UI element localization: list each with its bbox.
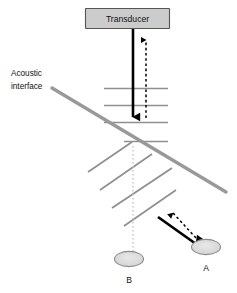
acoustic-interface-annotation: Acoustic interface bbox=[11, 69, 43, 91]
acoustic-interface-label-line2: interface bbox=[11, 82, 43, 91]
target-label-b: B bbox=[126, 275, 132, 285]
wavefront-line-below-3 bbox=[112, 168, 172, 208]
acoustic-interface-line bbox=[52, 88, 226, 192]
wavefront-line-below-1 bbox=[88, 142, 132, 172]
target-marker-b: B bbox=[115, 251, 144, 285]
target-ellipse-a bbox=[192, 239, 221, 254]
target-ellipse-b bbox=[115, 251, 144, 266]
diagram-canvas: Transducer A B Acoustic interface bbox=[0, 0, 237, 293]
target-marker-a: A bbox=[192, 239, 221, 273]
refracted-beam-arrow bbox=[158, 217, 196, 244]
acoustic-interface-label-line1: Acoustic bbox=[11, 69, 42, 78]
wavefronts-above-interface bbox=[104, 89, 168, 142]
transducer-block: Transducer bbox=[86, 9, 170, 29]
refraction-diagram: Transducer A B Acoustic interface bbox=[0, 0, 237, 293]
transducer-label: Transducer bbox=[106, 14, 149, 24]
target-label-a: A bbox=[203, 263, 209, 273]
